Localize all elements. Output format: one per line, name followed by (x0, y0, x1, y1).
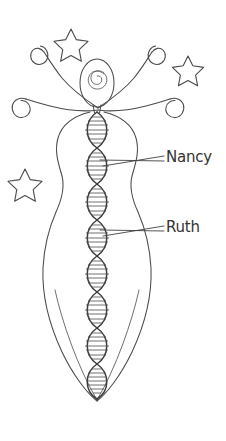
arm-upper-left (31, 46, 98, 108)
star-upper-left-icon (54, 29, 88, 61)
body-outline-left (43, 112, 97, 401)
label-ruth: Ruth (166, 220, 200, 235)
dna-double-helix (85, 112, 109, 399)
body-outline-right (97, 112, 151, 401)
leader-line-ruth (100, 226, 164, 236)
body-inner-taper (55, 290, 139, 400)
head-spiral-icon (88, 71, 107, 89)
head-outline (80, 59, 114, 107)
diagram-canvas: Nancy Ruth (0, 0, 226, 441)
leader-line-nancy (100, 156, 164, 166)
star-upper-right-icon (172, 56, 203, 86)
arm-lower-left (12, 98, 98, 117)
arm-lower-right (98, 98, 184, 117)
label-nancy: Nancy (166, 150, 212, 165)
arm-upper-right (98, 46, 165, 108)
star-mid-left-icon (8, 169, 42, 201)
